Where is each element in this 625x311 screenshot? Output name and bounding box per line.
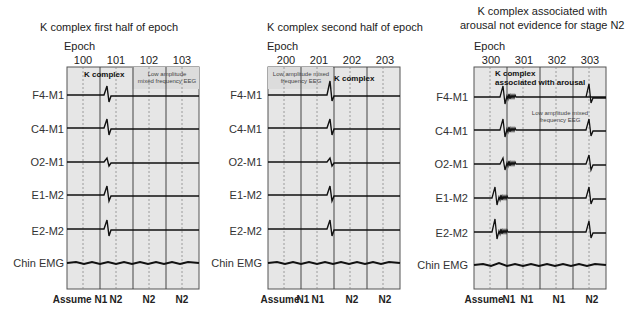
panel-2-channel-f4m1: F4-M1 xyxy=(200,89,262,101)
panel-1-channel-e2m2: E2-M2 xyxy=(2,225,64,237)
panel-1-epoch-101: 101 xyxy=(107,54,125,66)
panel-3-title: K complex associated with arousal not ev… xyxy=(460,4,625,32)
panel-1-epoch-103: 103 xyxy=(173,54,191,66)
panel-3-stage-4: N1 xyxy=(553,294,566,305)
panel-3-k-complex-line-1: K complex xyxy=(495,69,585,78)
panel-3-low-amplitude-line-2: frequency EEG xyxy=(525,117,595,124)
panel-3-title-line-2: arousal not evidence for stage N2 xyxy=(460,18,625,32)
panel-1-k-complex-annotation: K complex xyxy=(84,70,124,79)
panel-1-low-amplitude-line-2: mixed frequency EEG xyxy=(134,78,200,85)
panel-3-channel-o2m1: O2-M1 xyxy=(406,158,468,170)
panel-3-title-line-1: K complex associated with xyxy=(460,4,625,18)
panel-2-k-complex-annotation: K complex xyxy=(334,74,374,83)
panel-2-channel-c4m1: C4-M1 xyxy=(200,123,262,135)
panel-2-epoch-203: 203 xyxy=(376,54,394,66)
panel-2-epoch-201: 201 xyxy=(310,54,328,66)
panel-3-channel-c4m1: C4-M1 xyxy=(406,125,468,137)
panel-2-epoch-label: Epoch xyxy=(267,40,298,52)
panel-2-channel-o2m1: O2-M1 xyxy=(200,156,262,168)
panel-1-epoch-100: 100 xyxy=(74,54,92,66)
panel-3-channel-e1m2: E1-M2 xyxy=(406,192,468,204)
panel-1-channel-e1m2: E1-M2 xyxy=(2,189,64,201)
panel-3-low-amplitude-line-1: Low amplitude mixed xyxy=(525,110,595,117)
panel-3-epoch-label: Epoch xyxy=(474,40,505,52)
panel-3-channel-chin-emg: Chin EMG xyxy=(406,259,468,271)
panel-1-stage-3: N2 xyxy=(143,294,156,305)
panel-2-channel-e2m2: E2-M2 xyxy=(200,225,262,237)
panel-1-channel-chin-emg: Chin EMG xyxy=(2,257,64,269)
panel-3-k-complex-arousal-annotation: K complex associated with arousal xyxy=(495,69,585,87)
panel-3-epoch-303: 303 xyxy=(581,54,599,66)
panel-2-low-amplitude-line-1: Low amplitude mixed xyxy=(269,71,333,78)
panel-2-stage-2: N1 xyxy=(297,294,310,305)
panel-3-epoch-300: 300 xyxy=(482,54,500,66)
panel-2-stage-5: N2 xyxy=(379,294,392,305)
panel-1-epoch-label: Epoch xyxy=(64,40,95,52)
panel-1-trace-plot xyxy=(66,66,202,292)
panel-1-channel-o2m1: O2-M1 xyxy=(2,156,64,168)
panel-1-channel-f4m1: F4-M1 xyxy=(2,89,64,101)
panel-3-trace-plot xyxy=(473,66,609,292)
panel-1-low-amplitude-line-1: Low amplitude xyxy=(134,71,200,78)
panel-3-k-complex-line-2: associated with arousal xyxy=(495,78,585,87)
panel-3-stage-assume: Assume xyxy=(465,294,504,305)
panel-3-epoch-301: 301 xyxy=(515,54,533,66)
panel-1-epoch-102: 102 xyxy=(140,54,158,66)
panel-2-title: K complex second half of epoch xyxy=(267,20,423,34)
panel-2-stage-assume: Assume xyxy=(261,294,300,305)
panel-1-stage-2: N2 xyxy=(110,294,123,305)
panel-2-low-amplitude-line-2: frequency EEG xyxy=(269,78,333,85)
panel-2-stage-4: N2 xyxy=(346,294,359,305)
panel-2-trace-plot xyxy=(267,66,403,292)
panel-1-stage-4: N2 xyxy=(176,294,189,305)
panel-3-low-amplitude-annotation: Low amplitude mixed frequency EEG xyxy=(525,110,595,124)
panel-2-low-amplitude-annotation: Low amplitude mixed frequency EEG xyxy=(269,71,333,85)
panel-3-channel-f4m1: F4-M1 xyxy=(406,91,468,103)
panel-1-low-amplitude-annotation: Low amplitude mixed frequency EEG xyxy=(134,71,200,85)
panel-3-stage-3: N1 xyxy=(521,294,534,305)
panel-2-channel-chin-emg: Chin EMG xyxy=(200,257,262,269)
panel-1-title: K complex first half of epoch xyxy=(40,20,178,34)
panel-3-epoch-302: 302 xyxy=(548,54,566,66)
panel-2-epoch-200: 200 xyxy=(277,54,295,66)
panel-2-stage-3: N1 xyxy=(312,294,325,305)
panel-3-channel-e2m2: E2-M2 xyxy=(406,227,468,239)
panel-2-channel-e1m2: E1-M2 xyxy=(200,189,262,201)
panel-3-stage-5: N2 xyxy=(586,294,599,305)
panel-3-stage-2: N1 xyxy=(503,294,516,305)
panel-1-channel-c4m1: C4-M1 xyxy=(2,123,64,135)
panel-1-stage-assume-n1: Assume N1 xyxy=(53,294,107,305)
panel-2-epoch-202: 202 xyxy=(343,54,361,66)
